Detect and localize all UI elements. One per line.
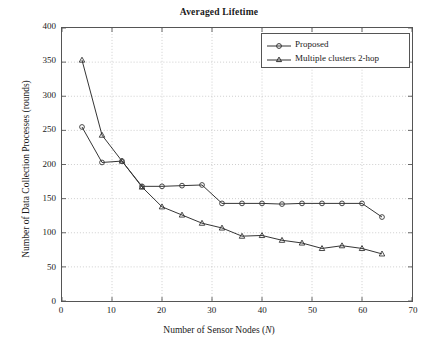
chart-title: Averaged Lifetime <box>0 7 438 17</box>
y-axis-title: Number of Data Collection Processes (rou… <box>21 39 31 299</box>
figure-averaged-lifetime: Averaged Lifetime Number of Data Collect… <box>0 0 438 348</box>
legend-label-proposed: Proposed <box>295 39 329 49</box>
plot-area <box>61 27 413 302</box>
x-tick-10: 10 <box>96 305 126 315</box>
legend-label-multiple-clusters: Multiple clusters 2-hop <box>295 53 379 63</box>
x-tick-40: 40 <box>247 305 277 315</box>
x-tick-70: 70 <box>398 305 428 315</box>
legend-item-multiple-clusters: Multiple clusters 2-hop <box>266 51 405 65</box>
y-tick-300: 300 <box>16 90 56 100</box>
x-tick-20: 20 <box>147 305 177 315</box>
tick-layer <box>62 28 412 301</box>
legend-marker-triangle-icon <box>266 52 292 64</box>
x-tick-60: 60 <box>348 305 378 315</box>
y-tick-50: 50 <box>16 262 56 272</box>
legend-marker-circle-icon <box>266 38 292 50</box>
y-tick-200: 200 <box>16 159 56 169</box>
x-tick-0: 0 <box>46 305 76 315</box>
chart-legend: Proposed Multiple clusters 2-hop <box>261 33 410 68</box>
y-tick-250: 250 <box>16 124 56 134</box>
x-axis-title: Number of Sensor Nodes (N) <box>0 325 438 335</box>
y-tick-400: 400 <box>16 21 56 31</box>
x-tick-50: 50 <box>297 305 327 315</box>
y-tick-350: 350 <box>16 55 56 65</box>
x-tick-30: 30 <box>197 305 227 315</box>
y-tick-150: 150 <box>16 193 56 203</box>
y-tick-100: 100 <box>16 227 56 237</box>
legend-item-proposed: Proposed <box>266 37 405 51</box>
